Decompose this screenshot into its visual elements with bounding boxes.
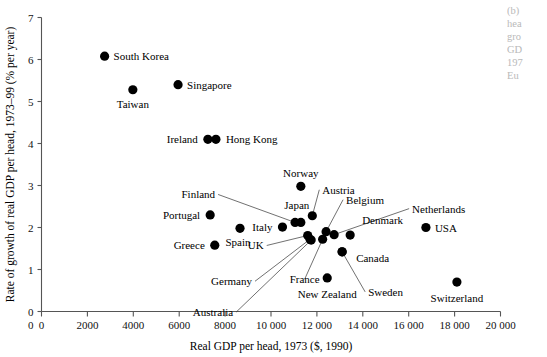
data-point[interactable]: USA <box>421 222 457 234</box>
data-point-label: Norway <box>283 167 319 179</box>
data-point-label: Belgium <box>346 194 384 206</box>
data-point-marker[interactable] <box>421 223 430 232</box>
data-point-marker[interactable] <box>296 182 305 191</box>
y-tick-label: 2 <box>28 222 34 234</box>
data-point-label: Canada <box>356 252 389 264</box>
data-point[interactable]: Hong Kong <box>211 133 278 145</box>
data-point-marker[interactable] <box>211 135 220 144</box>
data-point-label: Switzerland <box>431 292 484 304</box>
x-tick-label: 10 000 <box>256 319 287 331</box>
caption-fragment: (b)heagroGD197Eu <box>507 4 547 82</box>
data-point[interactable]: Ireland <box>167 133 213 145</box>
data-point-label: Netherlands <box>412 203 465 215</box>
scatter-plot-figure: 012345670200040006000800010 00012 00014 … <box>0 0 547 357</box>
data-point-label: Germany <box>211 275 252 287</box>
x-axis-title: Real GDP per head, 1973 ($, 1990) <box>190 340 353 353</box>
x-tick-label: 4000 <box>122 319 145 331</box>
data-point-label: Hong Kong <box>226 133 278 145</box>
data-point[interactable]: Taiwan <box>117 85 150 110</box>
data-point-label: Finland <box>181 188 215 200</box>
x-tick-label: 8000 <box>214 319 237 331</box>
data-point-marker[interactable] <box>307 236 316 245</box>
data-point-marker[interactable] <box>338 247 347 256</box>
chart-canvas: 012345670200040006000800010 00012 00014 … <box>0 0 547 357</box>
data-point[interactable]: Norway <box>283 167 319 191</box>
data-point-marker[interactable] <box>330 230 339 239</box>
data-point-marker[interactable] <box>235 224 244 233</box>
data-point[interactable]: Spain <box>225 224 251 249</box>
y-tick-label: 6 <box>28 54 34 66</box>
data-point[interactable]: Japan <box>284 199 310 227</box>
data-point[interactable]: Denmark <box>346 214 404 240</box>
y-axis-title: Rate of growth of real GDP per head, 197… <box>4 27 17 303</box>
x-tick-label: 0 <box>39 319 45 331</box>
caption-fragment-line: Eu <box>507 69 547 82</box>
data-point-label: Spain <box>225 236 251 248</box>
caption-fragment-line: gro <box>507 30 547 43</box>
label-leader-line <box>267 235 308 245</box>
data-point-label: Australia <box>193 306 233 318</box>
data-point-label: New Zealand <box>298 288 357 300</box>
data-point-label: Greece <box>174 239 205 251</box>
y-tick-label: 1 <box>28 264 34 276</box>
data-point[interactable]: Greece <box>174 239 220 251</box>
data-point-marker[interactable] <box>323 273 332 282</box>
data-point-label: Portugal <box>163 209 200 221</box>
data-point-marker[interactable] <box>100 52 109 61</box>
y-tick-label: 0 <box>28 306 34 318</box>
data-point-label: Taiwan <box>117 98 150 110</box>
x-tick-label: 16 000 <box>394 319 425 331</box>
data-point-marker[interactable] <box>206 210 215 219</box>
data-point-label: Singapore <box>187 79 232 91</box>
caption-fragment-line: hea <box>507 17 547 30</box>
data-point-label: Sweden <box>368 286 403 298</box>
data-point-label: Italy <box>252 221 273 233</box>
x-tick-label: 2000 <box>76 319 99 331</box>
data-point-marker[interactable] <box>210 241 219 250</box>
data-point-marker[interactable] <box>452 278 461 287</box>
x-tick-label: 12 000 <box>302 319 333 331</box>
data-point-label: Denmark <box>362 214 403 226</box>
data-point-marker[interactable] <box>128 85 137 94</box>
data-point-marker[interactable] <box>318 235 327 244</box>
x-tick-label: 18 000 <box>439 319 470 331</box>
y-tick-label: 4 <box>28 138 34 150</box>
x-tick-label: 20 000 <box>485 319 516 331</box>
y-tick-label: 3 <box>28 180 34 192</box>
data-point[interactable]: Switzerland <box>431 278 484 305</box>
data-point[interactable]: Portugal <box>163 209 215 221</box>
caption-fragment-line: 197 <box>507 56 547 69</box>
data-point[interactable]: South Korea <box>100 50 169 62</box>
data-point[interactable]: Italy <box>252 221 287 233</box>
data-point-label: Japan <box>284 199 310 211</box>
data-point-label: France <box>290 273 320 285</box>
caption-fragment-line: GD <box>507 43 547 56</box>
origin-zero-label: 0 <box>28 319 34 331</box>
data-point-label: USA <box>435 222 457 234</box>
label-leader-line <box>326 200 343 232</box>
caption-fragment-line: (b) <box>507 4 547 17</box>
data-point-label: South Korea <box>114 50 169 62</box>
data-point-marker[interactable] <box>173 80 182 89</box>
data-point-marker[interactable] <box>308 211 317 220</box>
data-point-label: Ireland <box>167 133 199 145</box>
data-point-marker[interactable] <box>296 218 305 227</box>
data-point-marker[interactable] <box>346 230 355 239</box>
data-point[interactable]: Finland <box>181 188 299 227</box>
data-point[interactable]: Singapore <box>173 79 231 91</box>
data-point-marker[interactable] <box>278 222 287 231</box>
x-tick-label: 6000 <box>168 319 191 331</box>
y-tick-label: 5 <box>28 96 34 108</box>
data-point-marker[interactable] <box>203 135 212 144</box>
y-tick-label: 7 <box>28 12 34 24</box>
x-tick-label: 14 000 <box>348 319 379 331</box>
